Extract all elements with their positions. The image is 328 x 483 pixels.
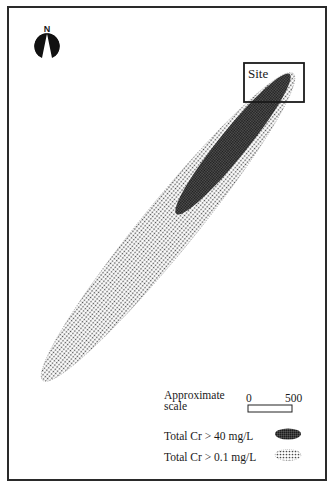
north-arrow-icon bbox=[34, 33, 59, 59]
site-label: Site bbox=[248, 67, 268, 81]
legend-label-low: Total Cr > 0.1 mg/L bbox=[164, 451, 256, 463]
scale-bar bbox=[248, 405, 292, 412]
scale-end-label: 500 bbox=[285, 392, 302, 404]
plume-high-concentration bbox=[165, 65, 300, 223]
scale-title: Approximate scale bbox=[164, 390, 234, 412]
north-label: N bbox=[41, 24, 53, 34]
legend-label-high: Total Cr > 40 mg/L bbox=[164, 430, 253, 442]
scale-start-label: 0 bbox=[246, 392, 252, 404]
legend-symbol-low bbox=[275, 450, 301, 461]
legend-symbol-high bbox=[275, 429, 301, 440]
